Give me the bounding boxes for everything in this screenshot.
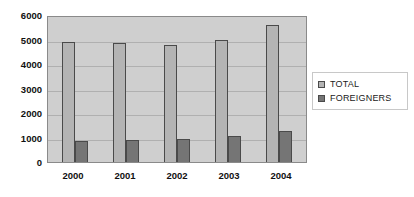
y-axis: 0100020003000400050006000	[0, 16, 42, 163]
legend-item-label: FOREIGNERS	[330, 93, 392, 103]
x-axis-tick-label-2004: 2004	[255, 168, 307, 184]
x-axis-tick-label-2000: 2000	[47, 168, 99, 184]
x-axis-tick-label-2002: 2002	[151, 168, 203, 184]
y-axis-tick-label: 5000	[0, 36, 42, 46]
plot-area	[47, 16, 307, 163]
y-axis-tick-label: 4000	[0, 60, 42, 70]
bar-total-2002	[164, 45, 177, 162]
bar-total-2000	[62, 42, 75, 162]
x-axis: 20002001200220032004	[47, 168, 307, 184]
y-axis-tick-label: 1000	[0, 134, 42, 144]
bar-total-2003	[215, 40, 228, 162]
chart-legend: TOTALFOREIGNERS	[312, 72, 408, 110]
bar-total-2001	[113, 43, 126, 162]
bar-foreigners-2001	[126, 140, 139, 162]
y-axis-tick-label: 0	[0, 158, 42, 168]
legend-item-foreigners: FOREIGNERS	[318, 91, 402, 105]
bar-foreigners-2000	[75, 141, 88, 162]
bar-group-2002	[152, 17, 203, 162]
bar-group-2000	[50, 17, 101, 162]
x-axis-tick-label-2001: 2001	[99, 168, 151, 184]
bar-group-2004	[253, 17, 304, 162]
y-axis-tick-label: 2000	[0, 109, 42, 119]
bar-foreigners-2002	[177, 139, 190, 162]
legend-item-total: TOTAL	[318, 77, 402, 91]
bar-foreigners-2004	[279, 131, 292, 162]
legend-swatch-icon	[318, 95, 325, 102]
x-axis-tick-label-2003: 2003	[203, 168, 255, 184]
y-axis-tick-label: 6000	[0, 11, 42, 21]
bar-foreigners-2003	[228, 136, 241, 162]
bar-chart: 0100020003000400050006000 20002001200220…	[0, 0, 414, 197]
bar-total-2004	[266, 25, 279, 162]
legend-swatch-icon	[318, 81, 325, 88]
bar-group-2003	[202, 17, 253, 162]
bars-layer	[48, 17, 306, 162]
bar-group-2001	[101, 17, 152, 162]
y-axis-tick-label: 3000	[0, 85, 42, 95]
legend-item-label: TOTAL	[330, 79, 359, 89]
